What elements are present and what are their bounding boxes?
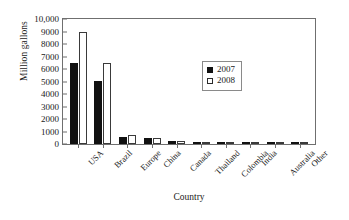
legend-entry-2008: 2008 <box>207 75 235 86</box>
legend-label: 2008 <box>217 75 235 86</box>
y-axis-title: Million gallons <box>19 1 29 101</box>
x-axis-tick-labels: USABrazilEuropeChinaCanadaThailandColomb… <box>62 146 316 190</box>
bar-other-2008 <box>300 142 308 144</box>
bar-europe-2007 <box>119 137 127 144</box>
x-tick-label-china: China <box>161 148 183 170</box>
bar-group <box>140 19 165 144</box>
x-axis-title: Country <box>62 192 316 202</box>
legend-label: 2007 <box>217 64 235 75</box>
bar-india-2008 <box>251 142 259 144</box>
bar-other-2007 <box>291 142 299 144</box>
x-tick-label-brazil: Brazil <box>112 148 134 170</box>
bar-europe-2008 <box>128 135 136 144</box>
y-tick-label: 5000 <box>41 77 59 86</box>
bar-australia-2007 <box>267 142 275 144</box>
y-tick-label: 9000 <box>41 27 59 36</box>
bar-group <box>91 19 116 144</box>
y-tick-label: 3000 <box>41 102 59 111</box>
filled-square-icon <box>207 67 213 73</box>
bar-thailand-2008 <box>202 142 210 144</box>
y-tick-label: 4000 <box>41 90 59 99</box>
x-tick-label-canada: Canada <box>187 148 212 173</box>
bar-canada-2007 <box>168 141 176 144</box>
x-tick-label-thailand: Thailand <box>213 148 242 177</box>
open-square-icon <box>207 78 213 84</box>
bar-group <box>263 19 288 144</box>
bar-chart-figure: Million gallons 010002000300040005000600… <box>0 0 349 220</box>
y-tick-label: 7000 <box>41 52 59 61</box>
y-tick-label: 10,000 <box>34 15 59 24</box>
bar-brazil-2008 <box>103 63 111 144</box>
bar-group <box>287 19 312 144</box>
bar-group <box>115 19 140 144</box>
chart-legend: 20072008 <box>202 61 242 91</box>
bar-australia-2008 <box>276 142 284 144</box>
y-tick-label: 1000 <box>41 127 59 136</box>
bar-india-2007 <box>242 142 250 144</box>
bar-group <box>66 19 91 144</box>
y-tick-label: 2000 <box>41 115 59 124</box>
x-tick-label-europe: Europe <box>138 148 163 173</box>
bar-colombia-2008 <box>226 142 234 144</box>
x-tick-label-usa: USA <box>86 148 105 167</box>
bar-brazil-2007 <box>94 81 102 144</box>
bar-canada-2008 <box>177 141 185 144</box>
bar-usa-2007 <box>70 63 78 144</box>
bar-group <box>164 19 189 144</box>
bars-layer <box>63 19 315 144</box>
bar-colombia-2007 <box>217 142 225 144</box>
y-tick-label: 8000 <box>41 40 59 49</box>
y-tick-label: 6000 <box>41 65 59 74</box>
bar-china-2008 <box>153 138 161 144</box>
bar-usa-2008 <box>79 32 87 145</box>
bar-china-2007 <box>144 138 152 144</box>
bar-thailand-2007 <box>193 142 201 144</box>
y-tick-label: 0 <box>55 140 60 149</box>
legend-entry-2007: 2007 <box>207 64 235 75</box>
plot-area: 010002000300040005000600070008000900010,… <box>62 18 316 145</box>
